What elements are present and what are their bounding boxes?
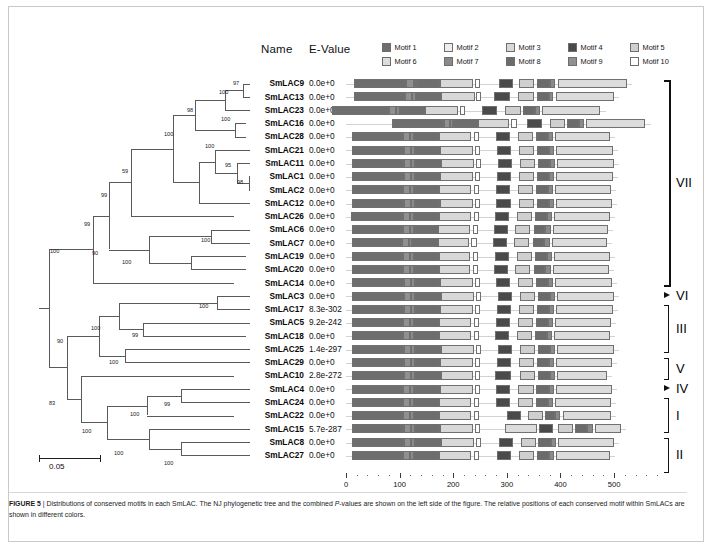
motif-block-smlac5-motif-7	[548, 318, 553, 327]
bootstrap-value-22: 83	[49, 400, 55, 406]
motif-block-smlac4-motif-4	[496, 385, 510, 394]
motif-block-smlac20-motif-1	[352, 265, 402, 274]
evalue-smlac12: 0.0e+0	[309, 198, 335, 208]
motif-block-smlac25-motif-9	[404, 345, 412, 354]
evalue-smlac15: 5.7e-287	[309, 424, 342, 434]
tree-branch-vertical	[149, 429, 150, 449]
motif-block-smlac4-motif-3	[440, 385, 472, 394]
scale-bar-line	[39, 458, 101, 459]
evalue-smlac1: 0.0e+0	[309, 171, 335, 181]
motif-block-smlac24-motif-4	[496, 398, 510, 407]
group-label-vii: VII	[676, 175, 692, 190]
motif-block-smlac5-motif-8	[536, 318, 548, 327]
motif-block-smlac11-motif-5	[520, 159, 535, 168]
tree-branch-vertical	[119, 303, 120, 330]
taxon-label-smlac7: SmLAC7	[159, 238, 304, 248]
motif-block-smlac8-motif-9	[404, 438, 412, 447]
group-bracket-iii	[664, 305, 669, 353]
taxon-label-smlac4: SmLAC4	[159, 384, 304, 394]
motif-block-smlac2-motif-1	[352, 185, 402, 194]
motif-block-smlac26-motif-1	[351, 212, 402, 221]
motif-block-smlac28-motif-6	[555, 132, 610, 141]
motif-block-smlac23-motif-1	[400, 106, 426, 115]
motif-block-smlac9-motif-1	[354, 79, 407, 88]
motif-block-smlac29-motif-3	[440, 358, 472, 367]
motif-block-smlac15-motif-9	[404, 424, 412, 433]
taxon-label-smlac26: SmLAC26	[159, 211, 304, 221]
evalue-smlac14: 0.0e+0	[309, 278, 335, 288]
motif-block-smlac19-motif-4	[495, 252, 509, 261]
taxon-label-smlac19: SmLAC19	[159, 251, 304, 261]
motif-block-smlac6-motif-5	[515, 225, 530, 234]
motif-block-smlac28-motif-7	[548, 132, 553, 141]
tree-branch-vertical	[49, 249, 50, 367]
bootstrap-value-16: 100	[91, 325, 100, 331]
motif-block-smlac5-motif-3	[439, 318, 471, 327]
scale-bar-cap-left	[39, 455, 40, 462]
motif-block-smlac13-motif-3	[441, 92, 474, 101]
tree-branch-horizontal	[109, 182, 131, 183]
axis-major-tick-400	[560, 473, 561, 478]
motif-block-smlac28-motif-3	[439, 132, 471, 141]
motif-block-smlac17-motif-10	[475, 305, 480, 314]
group-label-iv: IV	[676, 381, 688, 396]
motif-block-smlac15-motif-7	[587, 424, 592, 433]
taxon-label-smlac29: SmLAC29	[159, 357, 304, 367]
motif-block-smlac26-motif-4	[495, 212, 509, 221]
axis-minor-tick	[603, 475, 604, 476]
motif-block-smlac22-motif-8	[545, 411, 555, 420]
motif-block-smlac15-motif-4	[539, 424, 553, 433]
motif-block-smlac13-motif-6	[556, 92, 614, 101]
motif-block-smlac3-motif-7	[550, 292, 555, 301]
motif-block-smlac29-motif-10	[475, 358, 480, 367]
motif-block-smlac7-motif-5	[514, 238, 529, 247]
motif-block-smlac18-motif-9	[403, 331, 411, 340]
motif-block-smlac16-motif-1	[453, 119, 478, 128]
evalue-smlac21: 0.0e+0	[309, 145, 335, 155]
taxon-label-smlac9: SmLAC9	[159, 78, 304, 88]
motif-block-smlac19-motif-1	[414, 252, 440, 261]
motif-block-smlac26-motif-3	[439, 212, 471, 221]
taxon-label-smlac25: SmLAC25	[159, 344, 304, 354]
figure-page: Name E-Value Motif 1Motif 2Motif 3Motif …	[0, 0, 713, 549]
motif-block-smlac6-motif-3	[438, 225, 470, 234]
motif-block-smlac5-motif-1	[352, 318, 402, 327]
motif-block-smlac16-motif-8	[567, 119, 579, 128]
bootstrap-value-21: 100	[130, 411, 139, 417]
evalue-smlac25: 1.4e-297	[309, 344, 342, 354]
motif-block-smlac12-motif-7	[549, 199, 554, 208]
motif-block-smlac16-motif-6	[586, 119, 645, 128]
motif-block-smlac26-motif-1	[414, 212, 440, 221]
motif-block-smlac4-motif-6	[556, 385, 612, 394]
tree-branch-vertical	[81, 376, 82, 422]
motif-block-smlac5-motif-10	[474, 318, 479, 327]
motif-block-smlac12-motif-8	[537, 199, 549, 208]
motif-block-smlac17-motif-9	[404, 305, 412, 314]
motif-block-smlac18-motif-7	[547, 331, 552, 340]
motif-block-smlac14-motif-7	[548, 278, 553, 287]
tree-branch-vertical	[143, 323, 144, 336]
motif-block-smlac10-motif-5	[520, 371, 535, 380]
motif-block-smlac17-motif-6	[556, 305, 613, 314]
tree-scale-bar: 0.05	[39, 454, 109, 474]
motif-block-smlac21-motif-8	[537, 146, 549, 155]
motif-block-smlac20-motif-3	[439, 265, 470, 274]
axis-tick-label-300: 300	[501, 480, 514, 489]
figure-label: FIGURE 5	[9, 500, 41, 507]
motif-block-smlac29-motif-1	[352, 358, 403, 367]
motif-block-smlac18-motif-5	[517, 331, 532, 340]
motif-block-smlac9-motif-7	[550, 79, 555, 88]
motif-block-smlac27-motif-1	[414, 451, 440, 460]
tree-branch-horizontal	[67, 336, 99, 337]
taxon-label-smlac1: SmLAC1	[159, 171, 304, 181]
motif-block-smlac19-motif-1	[352, 252, 402, 261]
axis-minor-tick	[528, 475, 529, 476]
caption-separator-glyph: |	[43, 500, 45, 507]
motif-block-smlac27-motif-3	[439, 451, 471, 460]
motif-block-smlac21-motif-3	[440, 146, 472, 155]
motif-block-smlac16-motif-10	[511, 119, 516, 128]
motif-block-smlac11-motif-1	[352, 159, 403, 168]
motif-block-smlac18-motif-4	[495, 331, 509, 340]
motif-block-smlac19-motif-8	[535, 252, 547, 261]
motif-block-smlac9-motif-4	[499, 79, 513, 88]
